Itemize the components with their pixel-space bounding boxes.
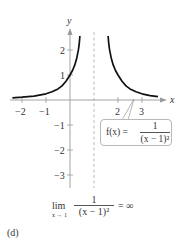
x-axis-arrow-icon bbox=[160, 98, 167, 103]
function-fraction: 1 (x − 1)² bbox=[139, 121, 171, 145]
function-denominator: (x − 1)² bbox=[139, 133, 171, 145]
limit-word: lim bbox=[52, 200, 65, 211]
y-tick-label: −3 bbox=[54, 170, 65, 181]
y-axis-arrow-icon bbox=[68, 28, 73, 35]
y-tick-label: −1 bbox=[54, 120, 65, 131]
x-tick-label: 3 bbox=[139, 106, 144, 117]
callout-pointer bbox=[122, 99, 134, 120]
y-tick-label: −2 bbox=[54, 145, 65, 156]
y-tick-label: 1 bbox=[60, 70, 65, 81]
limit-subscript: x → 1 bbox=[52, 212, 67, 218]
limit-numerator: 1 bbox=[74, 194, 114, 205]
x-tick-label: 2 bbox=[115, 106, 120, 117]
function-lhs: f(x) = bbox=[106, 127, 128, 137]
x-tick-label: −1 bbox=[39, 106, 50, 117]
limit-result: = ∞ bbox=[118, 200, 133, 211]
function-label-box: f(x) = 1 (x − 1)² bbox=[100, 119, 172, 146]
function-numerator: 1 bbox=[139, 121, 171, 132]
limit-fraction: 1 (x − 1)² bbox=[74, 194, 114, 218]
limit-denominator: (x − 1)² bbox=[74, 206, 114, 218]
curve-right-branch bbox=[108, 36, 158, 97]
x-tick-label: −2 bbox=[15, 106, 26, 117]
part-label: (d) bbox=[7, 227, 19, 238]
x-axis-label: x bbox=[169, 94, 175, 105]
y-tick-label: 2 bbox=[60, 45, 65, 56]
y-axis-label: y bbox=[66, 15, 72, 26]
